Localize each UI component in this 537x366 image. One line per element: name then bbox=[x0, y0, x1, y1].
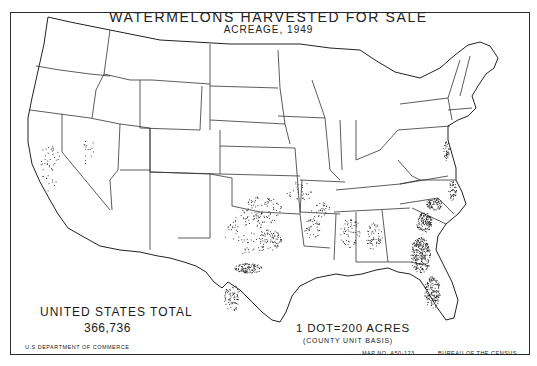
acreage-dot bbox=[275, 231, 276, 232]
acreage-dot bbox=[426, 245, 427, 246]
acreage-dot bbox=[435, 301, 436, 302]
acreage-dot bbox=[249, 267, 250, 268]
acreage-dot bbox=[416, 259, 417, 260]
acreage-dot bbox=[438, 285, 439, 286]
acreage-dot bbox=[429, 224, 430, 225]
acreage-dot bbox=[254, 270, 255, 271]
acreage-dot bbox=[248, 204, 249, 205]
acreage-dot bbox=[360, 233, 361, 234]
acreage-dot bbox=[230, 300, 231, 301]
acreage-dot bbox=[424, 224, 425, 225]
acreage-dot bbox=[245, 221, 246, 222]
acreage-dot bbox=[371, 241, 372, 242]
acreage-dot bbox=[428, 206, 429, 207]
acreage-dot bbox=[353, 232, 354, 233]
acreage-dot bbox=[48, 175, 49, 176]
state-line-co bbox=[150, 128, 220, 174]
acreage-dot bbox=[242, 253, 243, 254]
acreage-dot bbox=[272, 235, 273, 236]
acreage-dot bbox=[423, 257, 424, 258]
acreage-dot bbox=[54, 185, 55, 186]
acreage-dot bbox=[341, 228, 342, 229]
acreage-dot bbox=[421, 272, 422, 273]
acreage-dot bbox=[239, 291, 240, 292]
acreage-dot bbox=[455, 191, 456, 192]
acreage-dot bbox=[424, 216, 425, 217]
acreage-dot bbox=[251, 270, 252, 271]
acreage-dot bbox=[344, 228, 345, 229]
acreage-dot bbox=[306, 228, 307, 229]
acreage-dot bbox=[255, 266, 256, 267]
acreage-dot bbox=[320, 210, 321, 211]
acreage-dot bbox=[242, 267, 243, 268]
acreage-dot bbox=[246, 271, 247, 272]
acreage-dot bbox=[379, 243, 380, 244]
acreage-dot bbox=[425, 229, 426, 230]
acreage-dot bbox=[415, 240, 416, 241]
acreage-dot bbox=[380, 242, 381, 243]
acreage-dot bbox=[250, 267, 251, 268]
acreage-dot bbox=[446, 158, 447, 159]
acreage-dot bbox=[427, 216, 428, 217]
acreage-dot bbox=[435, 288, 436, 289]
acreage-dot bbox=[348, 241, 349, 242]
acreage-dot bbox=[421, 237, 422, 238]
acreage-dot bbox=[355, 232, 356, 233]
acreage-dot bbox=[260, 241, 261, 242]
acreage-dot bbox=[430, 277, 431, 278]
acreage-dot bbox=[431, 301, 432, 302]
acreage-dot bbox=[447, 146, 448, 147]
acreage-dot bbox=[421, 228, 422, 229]
acreage-dot bbox=[432, 200, 433, 201]
acreage-dot bbox=[431, 222, 432, 223]
acreage-dot bbox=[429, 226, 430, 227]
acreage-dot bbox=[304, 231, 305, 232]
acreage-dot bbox=[324, 203, 325, 204]
acreage-dot bbox=[371, 243, 372, 244]
acreage-dot bbox=[437, 303, 438, 304]
acreage-dot bbox=[414, 260, 415, 261]
acreage-dot bbox=[341, 240, 342, 241]
acreage-dot bbox=[438, 202, 439, 203]
acreage-dot bbox=[440, 201, 441, 202]
acreage-dot bbox=[302, 191, 303, 192]
acreage-dot bbox=[85, 163, 86, 164]
acreage-dot bbox=[344, 233, 345, 234]
acreage-dot bbox=[321, 216, 322, 217]
acreage-dot bbox=[380, 240, 381, 241]
acreage-dot bbox=[414, 252, 415, 253]
acreage-dot bbox=[46, 149, 47, 150]
acreage-dot bbox=[422, 218, 423, 219]
acreage-dot bbox=[359, 231, 360, 232]
acreage-dot bbox=[437, 202, 438, 203]
acreage-dot bbox=[241, 239, 242, 240]
acreage-dot bbox=[276, 247, 277, 248]
acreage-dot bbox=[237, 296, 238, 297]
acreage-dot bbox=[255, 212, 256, 213]
acreage-dot bbox=[244, 263, 245, 264]
acreage-dot bbox=[268, 230, 269, 231]
acreage-dot bbox=[52, 180, 53, 181]
acreage-dot bbox=[45, 155, 46, 156]
acreage-dot bbox=[241, 269, 242, 270]
acreage-dot bbox=[420, 270, 421, 271]
acreage-dot bbox=[421, 229, 422, 230]
acreage-dot bbox=[413, 249, 414, 250]
acreage-dot bbox=[303, 194, 304, 195]
acreage-dot bbox=[252, 207, 253, 208]
acreage-dot bbox=[424, 251, 425, 252]
acreage-dot bbox=[264, 222, 265, 223]
acreage-dot bbox=[254, 202, 255, 203]
acreage-dot bbox=[319, 230, 320, 231]
acreage-dot bbox=[448, 155, 449, 156]
acreage-dot bbox=[425, 255, 426, 256]
acreage-dot bbox=[52, 146, 53, 147]
acreage-dot bbox=[264, 216, 265, 217]
acreage-dot bbox=[435, 280, 436, 281]
acreage-dot bbox=[421, 252, 422, 253]
acreage-dot bbox=[426, 260, 427, 261]
acreage-dot bbox=[372, 240, 373, 241]
acreage-dot bbox=[451, 181, 452, 182]
acreage-dot bbox=[279, 242, 280, 243]
acreage-dot bbox=[224, 295, 225, 296]
